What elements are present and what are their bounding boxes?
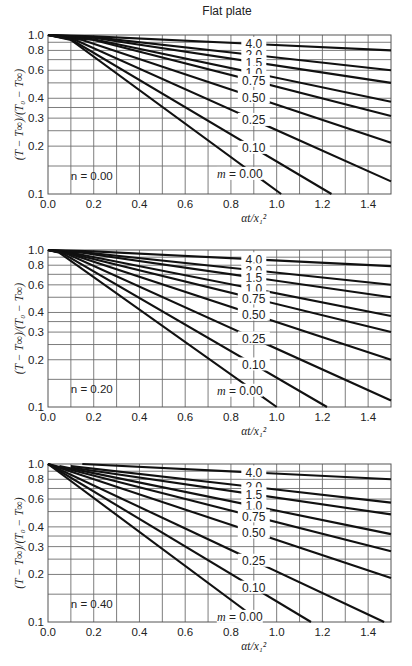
y-tick-label: 0.8 — [28, 44, 44, 56]
curve-label: 0.10 — [242, 141, 266, 155]
y-tick-label: 0.3 — [28, 541, 44, 553]
y-axis-label: (T − T∞)/(T₀ − T∞) — [13, 69, 26, 160]
x-tick-label: 0.8 — [223, 198, 239, 210]
curve-label: 0.10 — [242, 581, 266, 595]
y-tick-label: 0.3 — [28, 326, 44, 338]
x-tick-label: 0.2 — [86, 626, 102, 638]
y-tick-label: 0.6 — [28, 64, 44, 76]
x-axis-label: αt/x₁² — [241, 425, 267, 437]
curve-label: 0.75 — [242, 74, 266, 88]
x-tick-label: 1.2 — [314, 198, 330, 210]
y-tick-label: 1.0 — [28, 458, 44, 470]
y-tick-label: 0.3 — [28, 112, 44, 124]
y-tick-label: 0.2 — [28, 354, 44, 366]
y-tick-label: 1.0 — [28, 244, 44, 256]
x-tick-label: 0.8 — [223, 626, 239, 638]
x-tick-label: 0.4 — [131, 198, 148, 210]
curve-label: m = 0.00 — [217, 610, 263, 624]
y-axis-label: (T − T∞)/(T₀ − T∞) — [13, 283, 26, 374]
x-axis-label: αt/x₁² — [241, 212, 267, 224]
y-tick-label: 0.2 — [28, 568, 44, 580]
curve-label: 0.75 — [242, 292, 266, 306]
chart-panel-n-0-40: 1.00.80.60.40.30.20.10.00.20.40.60.81.01… — [13, 458, 391, 652]
y-tick-label: 0.4 — [28, 306, 45, 318]
x-tick-label: 1.2 — [314, 411, 330, 423]
curve-label: m = 0.00 — [217, 167, 263, 181]
curve-label: 0.50 — [242, 526, 266, 540]
y-tick-label: 0.2 — [28, 140, 44, 152]
curve-label: 4.0 — [245, 466, 262, 480]
curve-label: 0.25 — [242, 554, 266, 568]
x-tick-label: 0.2 — [86, 198, 102, 210]
y-tick-label: 0.8 — [28, 259, 44, 271]
x-tick-label: 1.0 — [269, 198, 285, 210]
panel-n-label: n = 0.40 — [71, 598, 113, 610]
curve-label: 0.10 — [242, 358, 266, 372]
y-tick-label: 0.6 — [28, 279, 44, 291]
figure: Flat plate 1.00.80.60.40.30.20.10.00.20.… — [0, 0, 412, 666]
curve-label: 0.50 — [242, 308, 266, 322]
curve-label: 0.25 — [242, 113, 266, 127]
x-tick-label: 0.6 — [177, 411, 193, 423]
x-tick-label: 0.0 — [40, 198, 56, 210]
y-tick-label: 0.8 — [28, 473, 44, 485]
x-tick-label: 0.4 — [131, 411, 148, 423]
curve-label: 0.75 — [242, 510, 266, 524]
x-tick-label: 0.8 — [223, 411, 239, 423]
x-tick-label: 1.2 — [314, 626, 330, 638]
curve-label: 0.25 — [242, 332, 266, 346]
x-tick-label: 0.0 — [40, 411, 56, 423]
curve-m-0.50 — [48, 464, 391, 578]
y-axis-label: (T − T∞)/(T₀ − T∞) — [13, 497, 26, 588]
x-tick-label: 0.2 — [86, 411, 102, 423]
x-axis-label: αt/x₁² — [241, 640, 267, 652]
curve-label: 0.50 — [242, 91, 266, 105]
x-tick-label: 0.0 — [40, 626, 56, 638]
x-tick-label: 1.4 — [360, 411, 377, 423]
x-tick-label: 0.6 — [177, 198, 193, 210]
x-tick-label: 1.0 — [269, 626, 285, 638]
x-tick-label: 0.4 — [131, 626, 148, 638]
x-tick-label: 1.0 — [269, 411, 285, 423]
y-tick-label: 1.0 — [28, 29, 44, 41]
curve-label: m = 0.00 — [217, 384, 263, 398]
chart-panel-n-0-20: 1.00.80.60.40.30.20.10.00.20.40.60.81.01… — [13, 244, 391, 437]
chart-panel-n-0-00: 1.00.80.60.40.30.20.10.00.20.40.60.81.01… — [13, 29, 391, 224]
curve-m-0.75 — [48, 250, 391, 332]
panel-n-label: n = 0.20 — [71, 383, 113, 395]
x-tick-label: 1.4 — [360, 198, 377, 210]
figure-title: Flat plate — [202, 4, 252, 18]
x-tick-label: 1.4 — [360, 626, 377, 638]
x-tick-label: 0.6 — [177, 626, 193, 638]
y-tick-label: 0.6 — [28, 493, 44, 505]
panel-n-label: n = 0.00 — [71, 170, 113, 182]
y-tick-label: 0.4 — [28, 92, 45, 104]
y-tick-label: 0.4 — [28, 521, 45, 533]
